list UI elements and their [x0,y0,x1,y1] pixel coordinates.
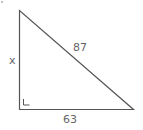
triangle-svg [0,0,143,130]
triangle-diagram: x 87 63 [0,0,143,130]
hypotenuse-label: 87 [73,42,87,53]
horizontal-leg-label: 63 [63,114,77,125]
vertical-leg-label: x [9,55,16,66]
right-angle-marker-icon [24,99,30,105]
right-triangle [20,11,134,110]
corner-dot [1,1,3,3]
